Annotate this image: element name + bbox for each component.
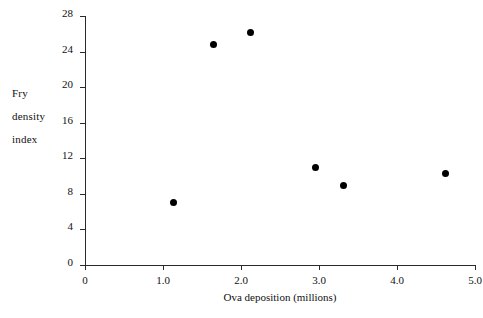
y-tick-label: 4 [68, 221, 74, 232]
y-tick-label: 0 [68, 257, 74, 268]
y-tick: 4 [80, 229, 85, 230]
x-tick-label: 2.0 [234, 275, 248, 286]
data-point [170, 199, 177, 206]
y-axis-label-line-2: index [12, 128, 70, 151]
x-tick-label: 0 [82, 275, 88, 286]
y-tick-label: 8 [68, 186, 74, 197]
y-tick: 20 [80, 87, 85, 88]
x-axis-label: Ova deposition (millions) [85, 291, 475, 304]
data-point [312, 164, 319, 171]
y-tick: 24 [80, 52, 85, 53]
y-tick-label: 28 [62, 8, 73, 19]
y-tick-label: 12 [62, 150, 73, 161]
data-point [442, 170, 449, 177]
data-point [247, 29, 254, 36]
y-tick: 12 [80, 158, 85, 159]
x-tick-label: 1.0 [156, 275, 170, 286]
y-axis-line [85, 16, 86, 265]
x-tick-label: 5.0 [468, 275, 482, 286]
data-point [210, 41, 217, 48]
x-tick: 5.0 [475, 265, 476, 270]
x-tick: 1.0 [163, 265, 164, 270]
y-tick: 8 [80, 194, 85, 195]
x-tick-label: 3.0 [312, 275, 326, 286]
x-tick: 0 [85, 265, 86, 270]
y-tick-label: 16 [62, 115, 73, 126]
x-axis-line [85, 265, 475, 266]
x-tick: 4.0 [397, 265, 398, 270]
x-tick: 3.0 [319, 265, 320, 270]
y-tick: 28 [80, 16, 85, 17]
x-tick: 2.0 [241, 265, 242, 270]
y-tick-label: 24 [62, 44, 73, 55]
plot-area: 0481216202428 01.02.03.04.05.0 [85, 16, 475, 265]
x-tick-label: 4.0 [390, 275, 404, 286]
scatter-chart: Frydensityindex 0481216202428 01.02.03.0… [0, 0, 483, 318]
y-tick-label: 20 [62, 79, 73, 90]
y-tick: 16 [80, 123, 85, 124]
data-point [340, 182, 347, 189]
